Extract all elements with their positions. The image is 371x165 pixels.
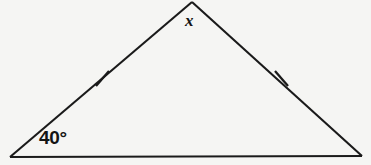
triangle-right-side xyxy=(192,2,362,156)
unknown-angle-label-x: x xyxy=(185,12,194,29)
angle-label-40-degrees: 40° xyxy=(39,128,67,147)
triangle-base xyxy=(10,156,362,157)
geometry-figure: 40° x xyxy=(0,0,371,165)
congruence-tick-left-icon xyxy=(96,71,109,86)
